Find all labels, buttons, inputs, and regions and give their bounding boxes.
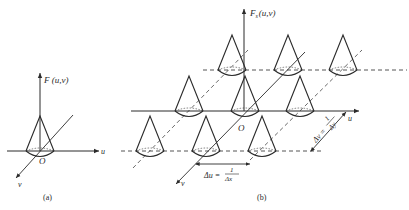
diag-line-left [133,50,248,168]
f-axis-label: Fs(u,v) [249,8,276,19]
v-axis [16,115,73,178]
u-axis-label: u [101,147,105,156]
figure-b: Fs(u,v) u v O Δu = 1 Δx Δv = 1 Δy (b) [121,8,407,202]
u-axis-label: u [348,114,352,123]
delta-u-label: Δu = 1 Δx [203,166,239,183]
svg-text:Δx: Δx [224,175,233,183]
diagram-canvas: F (u,v) u v O (a) Fs [0,0,409,210]
cone [192,116,220,157]
delta-v-label: Δv = 1 Δy [306,111,341,147]
cone [218,35,246,76]
figure-a: F (u,v) u v O (a) [7,73,105,202]
cone [248,116,276,157]
diag-line-right [250,50,362,160]
caption-b: (b) [257,193,267,202]
svg-text:Δv =: Δv = [310,127,328,145]
cone [231,76,259,117]
origin-label: O [238,123,245,133]
cone [329,35,357,76]
origin-label: O [39,156,46,166]
svg-text:Δu =: Δu = [203,171,220,180]
f-axis-label: F (u,v) [43,75,69,85]
svg-text:1: 1 [230,166,234,174]
v-axis-label: v [181,179,185,188]
caption-a: (a) [43,193,52,202]
v-axis-label: v [18,180,22,189]
